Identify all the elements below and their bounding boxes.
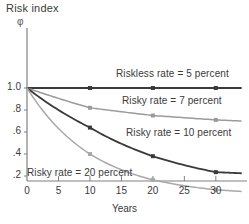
x-axis-tick-label: 10	[75, 185, 105, 196]
x-axis-tick-label: 25	[169, 185, 199, 196]
label-riskless-5: Riskless rate = 5 percent	[116, 68, 229, 79]
x-axis-tick-label: 0	[12, 185, 42, 196]
series-marker	[88, 86, 92, 90]
x-axis-title: Years	[0, 203, 249, 214]
label-risky-7: Risky rate = 7 percent	[122, 95, 222, 106]
series-marker	[88, 126, 92, 130]
label-risky-20: Risky rate = 20 percent	[27, 167, 132, 178]
y-axis-tick-label: .2	[0, 169, 21, 180]
series-marker	[214, 170, 218, 174]
x-axis-tick-label: 20	[138, 185, 168, 196]
x-axis-tick-label: 5	[43, 185, 73, 196]
chart-figure: Risk index φ 1.0.8.6.4.2051015202530 Ris…	[0, 0, 249, 224]
series-marker	[214, 118, 218, 122]
series-marker	[88, 152, 92, 156]
series-marker	[151, 178, 155, 182]
y-axis-tick-label: .4	[0, 147, 21, 158]
series-marker	[214, 86, 218, 90]
label-risky-10: Risky rate = 10 percent	[126, 127, 231, 138]
series-marker	[151, 86, 155, 90]
y-axis-tick-label: 1.0	[0, 81, 21, 92]
y-axis-tick-label: .6	[0, 125, 21, 136]
series-marker	[151, 114, 155, 118]
x-axis-tick-label: 30	[201, 185, 231, 196]
x-axis-tick-label: 15	[106, 185, 136, 196]
series-marker	[151, 154, 155, 158]
series-marker	[88, 106, 92, 110]
y-axis-tick-label: .8	[0, 103, 21, 114]
